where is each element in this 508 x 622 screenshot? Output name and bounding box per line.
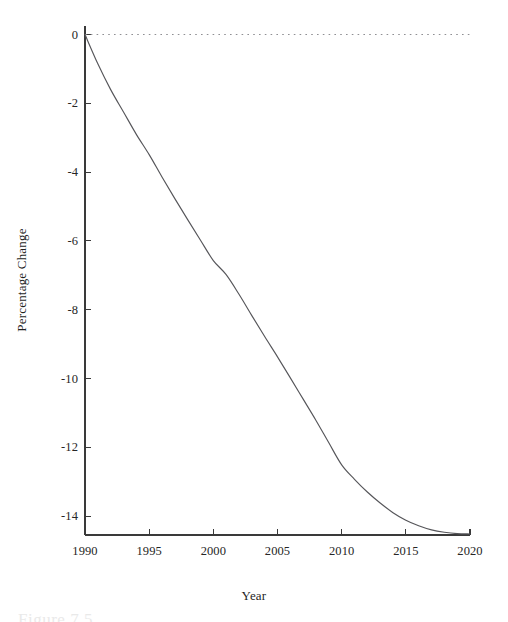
figure-caption-partial: Figure 7.5 (18, 610, 93, 622)
y-tick-marks (85, 35, 91, 516)
figure-container: 0-2-4-6-8-10-12-14 199019952000200520102… (0, 0, 508, 622)
y-tick-label: -8 (36, 303, 78, 316)
x-tick-label: 1995 (136, 545, 161, 558)
x-tick-label: 2010 (329, 545, 354, 558)
y-tick-label: 0 (36, 28, 78, 41)
y-tick-label: -2 (36, 97, 78, 110)
x-tick-label: 2000 (201, 545, 226, 558)
x-tick-label: 2020 (457, 545, 482, 558)
data-series-line (85, 35, 470, 534)
x-tick-label: 1990 (72, 545, 97, 558)
x-axis-title: Year (0, 588, 508, 604)
y-tick-label: -14 (36, 510, 78, 523)
y-tick-label: -12 (36, 441, 78, 454)
y-tick-label: -4 (36, 166, 78, 179)
y-tick-label: -6 (36, 235, 78, 248)
x-tick-label: 2015 (393, 545, 418, 558)
x-tick-label: 2005 (265, 545, 290, 558)
x-tick-marks (85, 529, 470, 535)
y-tick-label: -10 (36, 372, 78, 385)
